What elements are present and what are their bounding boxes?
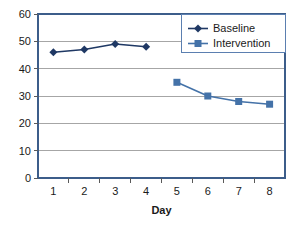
intervention-marker bbox=[235, 98, 242, 105]
legend-label: Baseline bbox=[213, 22, 255, 34]
square-icon bbox=[195, 40, 202, 47]
x-tick-label: 5 bbox=[174, 185, 180, 197]
x-tick-label: 8 bbox=[267, 185, 273, 197]
x-tick-label: 1 bbox=[50, 185, 56, 197]
y-tick-label: 60 bbox=[19, 8, 31, 20]
line-chart: 60 50 40 30 20 10 0 1 2 3 4 5 6 7 8 bbox=[0, 0, 305, 227]
x-tick-label: 7 bbox=[236, 185, 242, 197]
x-axis-tick-labels: 1 2 3 4 5 6 7 8 bbox=[50, 185, 272, 197]
x-tick-label: 3 bbox=[112, 185, 118, 197]
legend: Baseline Intervention bbox=[181, 14, 285, 52]
intervention-marker bbox=[173, 79, 180, 86]
y-axis-tick-labels: 60 50 40 30 20 10 0 bbox=[19, 8, 31, 184]
x-tick-label: 4 bbox=[143, 185, 149, 197]
y-tick-label: 0 bbox=[25, 172, 31, 184]
legend-label: Intervention bbox=[213, 37, 270, 49]
y-tick-label: 40 bbox=[19, 63, 31, 75]
intervention-marker bbox=[266, 101, 273, 108]
chart-canvas: 60 50 40 30 20 10 0 1 2 3 4 5 6 7 8 bbox=[0, 0, 305, 227]
y-tick-label: 50 bbox=[19, 35, 31, 47]
x-tick-label: 6 bbox=[205, 185, 211, 197]
x-axis-title: Day bbox=[151, 204, 172, 216]
x-tick-label: 2 bbox=[81, 185, 87, 197]
y-tick-label: 20 bbox=[19, 117, 31, 129]
intervention-marker bbox=[204, 93, 211, 100]
x-axis-ticks bbox=[69, 178, 254, 183]
y-tick-label: 30 bbox=[19, 90, 31, 102]
y-tick-label: 10 bbox=[19, 145, 31, 157]
